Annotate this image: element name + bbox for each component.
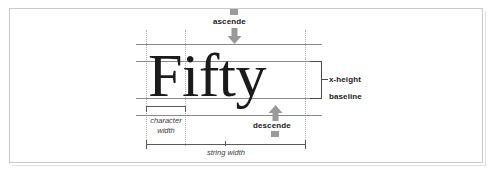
string-width-label: string width	[196, 148, 256, 158]
character-width-label: character width	[136, 116, 196, 136]
sample-word: Fifty	[148, 44, 266, 106]
string-end-guide	[305, 30, 306, 146]
arrow-up-block-icon	[268, 105, 283, 121]
character-width-line1: character	[150, 116, 181, 125]
descender-marker-icon	[271, 131, 279, 137]
ascender-label: ascende	[213, 17, 246, 26]
x-height-bracket	[310, 61, 322, 99]
descender-label: descende	[253, 121, 291, 130]
x-height-leader	[322, 79, 328, 80]
arrow-down-block-icon	[227, 28, 242, 44]
string-width-cap-right	[305, 140, 306, 149]
character-width-line2: width	[157, 126, 175, 135]
string-width-cap-left	[146, 140, 147, 149]
ascender-marker-icon	[230, 9, 238, 15]
baseline-label: baseline	[329, 92, 362, 101]
string-width-cap-mid	[225, 141, 226, 146]
typography-diagram: Fifty ascende descende x-height baseline…	[0, 0, 497, 179]
character-width-bracket	[146, 106, 186, 112]
x-height-label: x-height	[329, 75, 361, 84]
